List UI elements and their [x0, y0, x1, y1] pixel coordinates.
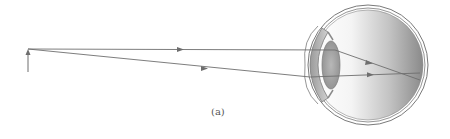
lens	[322, 41, 340, 89]
object-arrow-icon	[26, 49, 31, 72]
eye-ray-diagram	[0, 0, 450, 139]
ray-arrow-icon	[177, 47, 184, 52]
figure-label: (a)	[211, 106, 225, 117]
